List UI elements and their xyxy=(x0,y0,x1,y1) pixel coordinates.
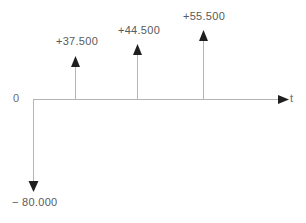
time-axis-label: t xyxy=(290,92,293,104)
outflow-label: − 80.000 xyxy=(12,196,58,208)
inflow-3-label: +55.500 xyxy=(183,10,225,22)
inflow-3-arrowhead-icon xyxy=(199,30,208,41)
origin-label: 0 xyxy=(13,92,19,104)
inflow-2-arrowhead-icon xyxy=(133,44,142,55)
inflow-2-label: +44.500 xyxy=(118,24,160,36)
time-axis-arrowhead-icon xyxy=(278,95,289,104)
inflow-1-label: +37.500 xyxy=(56,35,98,47)
inflow-1-arrowhead-icon xyxy=(71,56,80,67)
cash-flow-diagram: 0 t +37.500 +44.500 +55.500 − 80.000 xyxy=(0,0,306,223)
outflow-arrowhead-icon xyxy=(29,181,39,192)
